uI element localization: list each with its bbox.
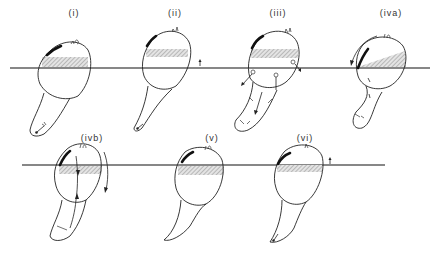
diagram-canvas bbox=[0, 0, 444, 254]
arrow bbox=[37, 126, 44, 132]
panel-label-ii: (ii) bbox=[168, 8, 182, 18]
upward-arrowhead bbox=[329, 157, 332, 160]
panel-ii bbox=[134, 27, 202, 131]
arrowhead bbox=[104, 187, 108, 193]
stalk-outline bbox=[235, 82, 277, 131]
curved-side-arrow bbox=[104, 152, 108, 190]
thick-edge bbox=[252, 36, 263, 48]
panel-label-vi: (vi) bbox=[297, 133, 314, 143]
panel-i bbox=[30, 40, 91, 136]
small-mark bbox=[42, 122, 46, 126]
panel-v bbox=[164, 146, 224, 240]
body-outline bbox=[142, 31, 190, 89]
arrow bbox=[256, 92, 262, 112]
node-marker bbox=[251, 70, 255, 74]
small-mark bbox=[57, 226, 67, 230]
small-mark bbox=[355, 114, 364, 118]
stalk-outline bbox=[270, 200, 306, 242]
panel-label-iva: (iva) bbox=[380, 8, 403, 18]
panel-label-iii: (iii) bbox=[270, 8, 287, 18]
arrowhead bbox=[254, 110, 258, 115]
arrowhead bbox=[350, 60, 354, 66]
body-outline bbox=[38, 42, 91, 99]
arrowhead-up bbox=[75, 193, 79, 199]
node-marker bbox=[291, 60, 295, 64]
stalk-outline bbox=[164, 200, 206, 240]
top-tuft-icon bbox=[305, 144, 308, 148]
thick-edge bbox=[60, 151, 70, 165]
hatched-band bbox=[251, 49, 298, 58]
hatched-band bbox=[277, 165, 322, 172]
arrow-dot bbox=[35, 131, 38, 134]
thick-edge bbox=[147, 36, 156, 46]
hatched-band bbox=[59, 166, 102, 174]
panel-label-ivb: (ivb) bbox=[81, 133, 104, 143]
panel-ivb bbox=[50, 144, 108, 241]
panel-vi bbox=[270, 144, 332, 242]
panel-label-i: (i) bbox=[69, 8, 80, 18]
body-outline bbox=[175, 147, 223, 205]
hatched-band bbox=[146, 49, 188, 57]
stalk-outline bbox=[30, 93, 70, 136]
small-arrow bbox=[369, 94, 370, 98]
panel-iva bbox=[350, 34, 406, 128]
hatched-band bbox=[42, 57, 88, 67]
body-outline bbox=[248, 31, 299, 87]
top-tuft-icon bbox=[80, 144, 86, 148]
panel-label-v: (v) bbox=[205, 133, 219, 143]
small-arrow bbox=[368, 78, 370, 82]
hatched-band bbox=[178, 166, 224, 175]
body-outline bbox=[274, 145, 323, 204]
arrow-dot bbox=[272, 239, 274, 241]
panel-iii bbox=[235, 28, 301, 131]
stalk-outline bbox=[50, 200, 86, 241]
node-marker bbox=[274, 73, 278, 77]
stalk-outline bbox=[353, 86, 382, 128]
stalk-outline bbox=[134, 86, 172, 131]
arrow-dot bbox=[136, 127, 138, 129]
curved-arrow bbox=[352, 36, 377, 62]
upward-arrowhead bbox=[199, 59, 202, 62]
